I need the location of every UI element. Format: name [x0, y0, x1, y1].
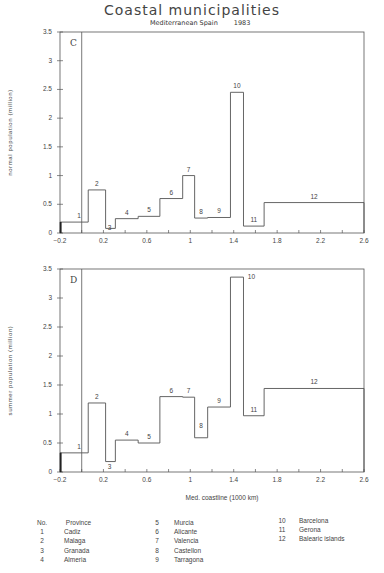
x-tick-label: 2.2	[316, 476, 325, 483]
legend-item: 5Murcia	[150, 518, 203, 527]
x-tick-label: 0.6	[142, 237, 151, 244]
step-label: 4	[125, 209, 129, 216]
step-label: 1	[77, 212, 81, 219]
legend-no: 1	[30, 527, 54, 536]
legend-province: Malaga	[64, 536, 85, 545]
y-tick-label: 2	[48, 352, 52, 359]
legend-item: 7Valencia	[150, 536, 203, 545]
legend-no: 7	[150, 536, 164, 545]
step-label: 3	[108, 463, 112, 470]
y-tick-label: 0.5	[43, 439, 52, 446]
legend-no: 8	[150, 546, 164, 555]
y-tick-label: 0.5	[43, 200, 52, 207]
y-tick-label: 3.5	[43, 28, 52, 35]
legend-item: 12Balearic islands	[275, 534, 345, 543]
x-tick-label: −0.2	[54, 476, 67, 483]
legend-item: 2Malaga	[30, 536, 91, 545]
legend-item: 1Cadiz	[30, 527, 91, 536]
x-tick-label: 1.8	[273, 476, 282, 483]
step-label: 7	[187, 387, 191, 394]
legend-no: 4	[30, 555, 54, 564]
x-tick-label: −0.2	[54, 237, 67, 244]
y-tick-label: 1	[48, 410, 52, 417]
legend-item: 11Gerona	[275, 525, 345, 534]
legend-header: No. Province	[30, 518, 91, 527]
legend-province: Gerona	[299, 525, 321, 534]
x-tick-label: 1.4	[229, 476, 238, 483]
y-tick-label: 1	[48, 172, 52, 179]
legend-province: Murcia	[174, 518, 194, 527]
y-tick-label: 3.5	[43, 265, 52, 272]
step-label: 12	[310, 193, 318, 200]
legend-province: Almeria	[64, 555, 86, 564]
x-tick-label: 1	[188, 237, 192, 244]
x-tick-label: 2.6	[359, 476, 368, 483]
legend-header-no: No.	[30, 518, 54, 527]
x-tick-label: 0.2	[99, 476, 108, 483]
y-tick-label: 2.5	[43, 85, 52, 92]
y-axis-label: summer population (million)	[7, 326, 13, 416]
legend-no: 6	[150, 527, 164, 536]
legend-province: Castellon	[174, 546, 201, 555]
legend-header-province: Province	[66, 518, 91, 527]
step-label: 3	[108, 224, 112, 231]
step-label: 6	[169, 189, 173, 196]
y-tick-label: 3	[48, 57, 52, 64]
step-label: 1	[77, 443, 81, 450]
x-tick-label: 1.4	[229, 237, 238, 244]
legend-no: 12	[275, 534, 289, 543]
legend-province: Alicante	[174, 527, 197, 536]
x-tick-label: 2.6	[359, 237, 368, 244]
legend-item: 6Alicante	[150, 527, 203, 536]
step-label: 4	[125, 430, 129, 437]
y-axis-label: normal population (million)	[7, 89, 13, 176]
y-tick-label: 0	[48, 229, 52, 236]
panel-label: C	[70, 38, 77, 48]
legend-item: 4Almeria	[30, 555, 91, 564]
legend-province: Cadiz	[64, 527, 81, 536]
step-label: 5	[147, 433, 151, 440]
legend-item: 10Barcelona	[275, 516, 345, 525]
legend-item: 9Tarragona	[150, 555, 203, 564]
step-label: 10	[233, 82, 241, 89]
step-label: 7	[187, 166, 191, 173]
step-label: 8	[199, 422, 203, 429]
step-label: 11	[250, 406, 257, 413]
y-tick-label: 3	[48, 294, 52, 301]
step-label: 8	[199, 208, 203, 215]
legend-item: 3Granada	[30, 546, 91, 555]
legend-no: 11	[275, 525, 289, 534]
y-tick-label: 1.5	[43, 143, 52, 150]
y-tick-label: 2	[48, 114, 52, 121]
x-tick-label: 1.8	[273, 237, 282, 244]
legend-province: Valencia	[174, 536, 198, 545]
legend-province: Granada	[64, 546, 89, 555]
step-label: 9	[217, 397, 221, 404]
legend-item: 8Castellon	[150, 546, 203, 555]
legend-no: 3	[30, 546, 54, 555]
chart-canvas: 00.511.522.533.5−0.20.20.611.41.82.22.6C…	[0, 0, 384, 573]
step-label: 12	[310, 378, 318, 385]
legend-column-1: No. Province 1Cadiz 2Malaga 3Granada 4Al…	[30, 518, 91, 564]
step-label: 2	[95, 180, 99, 187]
legend-no: 10	[275, 516, 289, 525]
panel-label: D	[70, 275, 77, 285]
y-tick-label: 0	[48, 468, 52, 475]
legend-no: 5	[150, 518, 164, 527]
step-label: 11	[250, 216, 257, 223]
legend-column-2: 5Murcia 6Alicante 7Valencia 8Castellon 9…	[150, 518, 203, 564]
step-series	[60, 277, 364, 472]
x-tick-label: 1	[188, 476, 192, 483]
x-tick-label: 0.2	[99, 237, 108, 244]
x-tick-label: 2.2	[316, 237, 325, 244]
y-tick-label: 2.5	[43, 323, 52, 330]
step-series	[60, 92, 364, 233]
legend-province: Balearic islands	[299, 534, 345, 543]
legend-no: 9	[150, 555, 164, 564]
legend-province: Tarragona	[174, 555, 203, 564]
step-label: 2	[95, 393, 99, 400]
legend-no: 2	[30, 536, 54, 545]
y-tick-label: 1.5	[43, 381, 52, 388]
step-label: 6	[169, 387, 173, 394]
x-axis-label: Med. coastline (1000 km)	[186, 494, 259, 502]
